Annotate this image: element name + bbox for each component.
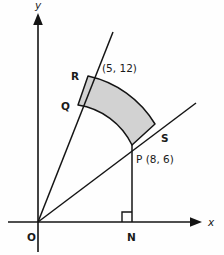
y-axis-arrowhead bbox=[33, 13, 43, 25]
point-label-p: P (8, 6) bbox=[136, 153, 174, 165]
point-label-r: R bbox=[71, 70, 79, 82]
right-angle-marker-icon bbox=[122, 212, 132, 222]
x-axis-label: x bbox=[207, 216, 215, 228]
point-label-q: Q bbox=[61, 100, 70, 112]
geometry-diagram: y x O N P (8, 6) Q R S (5, 12) bbox=[0, 0, 224, 255]
point-label-s: S bbox=[161, 132, 169, 144]
point-label-o: O bbox=[27, 231, 36, 243]
y-axis-label: y bbox=[34, 0, 42, 11]
figure-root: y x O N P (8, 6) Q R S (5, 12) bbox=[0, 0, 224, 255]
point-label-r-coordinate: (5, 12) bbox=[102, 62, 137, 74]
point-label-n: N bbox=[127, 231, 136, 243]
x-axis-arrowhead bbox=[190, 217, 202, 227]
shaded-region-qrsp bbox=[78, 76, 155, 145]
